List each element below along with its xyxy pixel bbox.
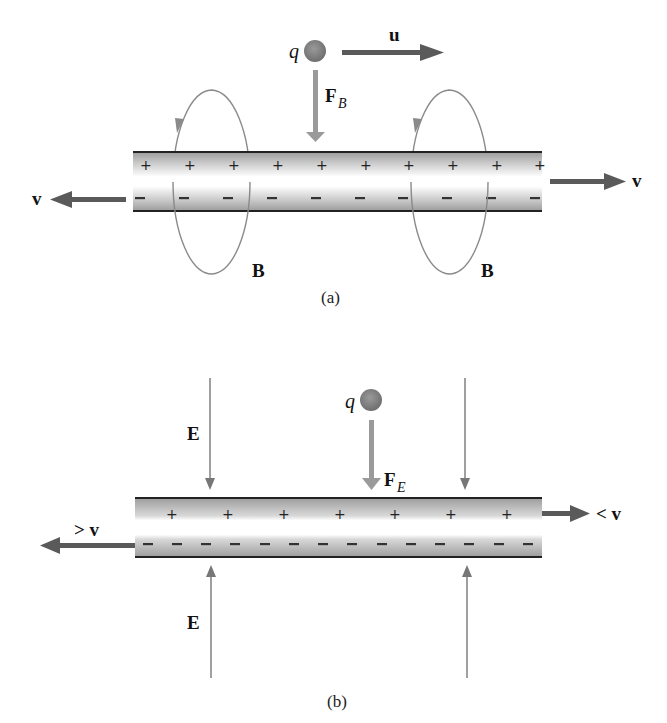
charge-q-a bbox=[304, 40, 326, 62]
minus-sign bbox=[347, 543, 357, 545]
magnetic-force-arrow bbox=[306, 70, 325, 142]
arrowhead-up-icon bbox=[462, 565, 472, 577]
plus-sign: + bbox=[447, 157, 459, 173]
plus-sign: + bbox=[491, 157, 503, 173]
e-field-line-top-left bbox=[205, 378, 215, 490]
charge-q-b bbox=[360, 389, 382, 411]
plus-sign: + bbox=[222, 506, 234, 522]
plus-sign: + bbox=[334, 506, 346, 522]
wire-velocity-right-arrow bbox=[550, 173, 626, 190]
plus-sign: + bbox=[534, 157, 546, 173]
minus-sign bbox=[223, 197, 233, 199]
minus-sign bbox=[530, 197, 540, 199]
minus-sign bbox=[442, 197, 452, 199]
minus-sign bbox=[355, 197, 365, 199]
minus-sign bbox=[172, 543, 182, 545]
panel-b: E q F E + + + + + + + bbox=[40, 378, 622, 711]
minus-sign bbox=[435, 543, 445, 545]
minus-sign bbox=[289, 543, 299, 545]
e-field-label-top: E bbox=[187, 423, 200, 444]
b-field-label-right: B bbox=[481, 260, 494, 281]
minus-sign bbox=[523, 543, 533, 545]
arrowhead-left-icon bbox=[40, 537, 60, 554]
arrowhead-right-icon bbox=[420, 44, 444, 61]
minus-sign bbox=[398, 197, 408, 199]
velocity-greater-v-label: > v bbox=[74, 519, 100, 540]
velocity-less-v-label: < v bbox=[596, 503, 622, 524]
arrowhead-down-icon bbox=[362, 478, 381, 490]
plus-sign: + bbox=[501, 506, 513, 522]
b-field-label-left: B bbox=[252, 260, 265, 281]
caption-b: (b) bbox=[327, 692, 347, 711]
force-e-label: F bbox=[384, 469, 396, 490]
plus-sign: + bbox=[228, 157, 240, 173]
plus-sign: + bbox=[316, 157, 328, 173]
minus-sign bbox=[179, 197, 189, 199]
arrowhead-down-icon bbox=[205, 478, 215, 490]
electric-force-arrow bbox=[362, 420, 381, 490]
e-field-line-bottom-right bbox=[462, 565, 472, 678]
charge-label-a: q bbox=[289, 40, 299, 63]
minus-sign bbox=[464, 543, 474, 545]
e-field-line-top-right bbox=[460, 378, 470, 490]
force-e-subscript: E bbox=[396, 480, 406, 495]
force-b-label: F bbox=[325, 85, 337, 106]
plus-sign: + bbox=[445, 506, 457, 522]
minus-sign bbox=[318, 543, 328, 545]
plus-sign: + bbox=[166, 506, 178, 522]
arrowhead-right-icon bbox=[604, 173, 626, 190]
plus-sign: + bbox=[403, 157, 415, 173]
e-field-line-bottom-left bbox=[206, 565, 216, 678]
minus-sign bbox=[143, 543, 153, 545]
minus-sign bbox=[135, 197, 145, 199]
plus-sign: + bbox=[389, 506, 401, 522]
wire-velocity-left-arrow bbox=[50, 191, 126, 208]
minus-sign bbox=[230, 543, 240, 545]
velocity-u-label: u bbox=[389, 24, 400, 45]
plus-sign: + bbox=[272, 157, 284, 173]
minus-sign bbox=[267, 197, 277, 199]
minus-sign bbox=[311, 197, 321, 199]
minus-sign bbox=[377, 543, 387, 545]
arrowhead-down-icon bbox=[460, 478, 470, 490]
minus-sign bbox=[260, 543, 270, 545]
arrowhead-left-icon bbox=[50, 191, 72, 208]
force-b-subscript: B bbox=[338, 96, 347, 111]
plus-sign: + bbox=[360, 157, 372, 173]
panel-a: + + + + + + + + + + bbox=[32, 24, 642, 307]
minus-sign bbox=[406, 543, 416, 545]
relativity-wire-diagram: + + + + + + + + + + bbox=[0, 0, 667, 723]
charge-label-b: q bbox=[345, 390, 355, 413]
caption-a: (a) bbox=[321, 288, 340, 307]
arrowhead-up-icon bbox=[206, 565, 216, 577]
plus-sign: + bbox=[184, 157, 196, 173]
e-field-label-bottom: E bbox=[187, 612, 200, 633]
minus-sign bbox=[494, 543, 504, 545]
plus-sign: + bbox=[140, 157, 152, 173]
plus-sign: + bbox=[278, 506, 290, 522]
velocity-u-arrow bbox=[342, 44, 444, 61]
arrowhead-down-icon bbox=[306, 132, 325, 142]
minus-sign bbox=[201, 543, 211, 545]
arrowhead-right-icon bbox=[570, 505, 590, 522]
positive-charge-velocity-arrow bbox=[542, 505, 590, 522]
velocity-v-right-label: v bbox=[632, 170, 642, 191]
velocity-v-left-label: v bbox=[32, 188, 42, 209]
